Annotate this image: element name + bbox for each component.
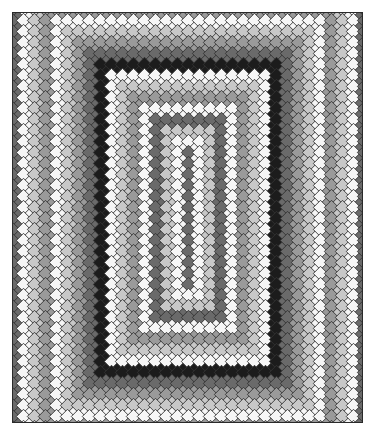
diamond-mosaic: [13, 13, 363, 423]
quilt: [12, 12, 363, 423]
